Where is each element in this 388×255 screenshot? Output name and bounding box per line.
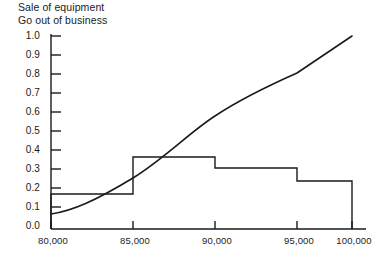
chart-figure: Sale of equipment Go out of business 1.0… [0,0,388,255]
x-axis-ticks [51,221,352,229]
cumulative-curve [51,36,352,214]
chart-plot-area [0,0,388,255]
histogram-outline [51,157,352,229]
y-axis-ticks [51,36,61,207]
